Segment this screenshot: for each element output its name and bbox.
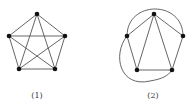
vertex-top — [35, 12, 40, 17]
graph-2-label: (2) — [147, 91, 158, 100]
edge-top-bottom-right — [154, 14, 172, 70]
vertex-left — [125, 34, 130, 39]
edge-top-left — [9, 14, 37, 36]
edge-right-bottom-right — [55, 36, 65, 69]
edge-left-bottom-right — [9, 36, 55, 69]
edge-top-right — [37, 14, 65, 36]
edge-left-bottom-left — [9, 36, 19, 69]
edge-top-bottom-right — [37, 14, 55, 69]
edge-top-bottom-left — [19, 14, 37, 69]
edge-top-bottom-left — [137, 14, 154, 70]
graph-1-vertices — [7, 12, 68, 72]
vertex-bottom-left — [135, 68, 140, 73]
edge-left-bottom-left — [127, 36, 137, 70]
edge-right-bottom-right — [172, 36, 183, 70]
graph-2-vertices — [125, 12, 186, 73]
vertex-bottom-right — [53, 67, 58, 72]
vertex-top — [152, 12, 157, 17]
vertex-bottom-left — [17, 67, 22, 72]
vertex-right — [181, 34, 186, 39]
vertex-bottom-right — [170, 68, 175, 73]
edge-top-left — [127, 14, 154, 36]
diagram-canvas: (1) (2) — [0, 0, 189, 109]
vertex-right — [63, 34, 68, 39]
curved-edge-left-bottom-right — [120, 36, 172, 82]
edge-right-bottom-left — [19, 36, 65, 69]
edge-top-right — [154, 14, 183, 36]
vertex-left — [7, 34, 12, 39]
graph-1 — [9, 14, 65, 69]
graph-1-label: (1) — [31, 91, 42, 100]
